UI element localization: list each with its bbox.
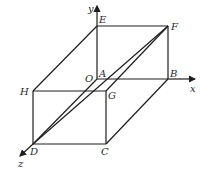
diagonal-FD [33, 26, 168, 144]
box-diagram: y x z O E F A B H G D C [0, 0, 203, 179]
edge-FG [106, 26, 168, 91]
label-vertex-B: B [169, 68, 177, 79]
edge-BC [106, 79, 168, 144]
label-vertex-E: E [98, 14, 107, 25]
label-vertex-G: G [108, 90, 116, 101]
label-y-axis: y [87, 3, 94, 14]
label-x-axis: x [190, 83, 196, 94]
label-vertex-D: D [29, 146, 38, 157]
label-vertex-A: A [98, 68, 106, 79]
label-origin: O [85, 73, 93, 84]
edge-AD [33, 79, 97, 144]
label-vertex-C: C [101, 146, 109, 157]
label-z-axis: z [17, 158, 24, 169]
label-vertex-F: F [170, 21, 179, 32]
label-vertex-H: H [19, 86, 29, 97]
diagram-canvas: y x z O E F A B H G D C [0, 0, 203, 179]
